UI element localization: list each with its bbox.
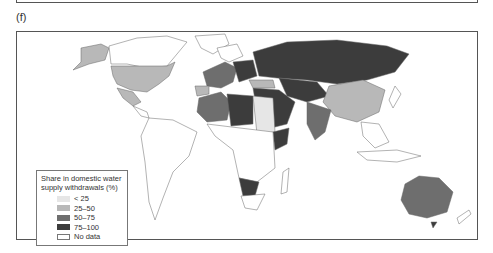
- region-turkey: [249, 80, 275, 88]
- region-russia: [253, 40, 409, 84]
- region-se-asia: [361, 122, 389, 148]
- region-indonesia: [357, 150, 421, 162]
- swatch-75-100: [57, 224, 70, 230]
- legend-item-50-75: 50–75: [41, 213, 123, 223]
- swatch-lt25: [57, 196, 70, 202]
- region-alaska: [73, 44, 109, 70]
- panel-label: (f): [16, 11, 26, 23]
- region-new-zealand: [457, 210, 471, 224]
- legend-label: 25–50: [74, 204, 95, 213]
- map-frame: Share in domestic water supply withdrawa…: [16, 31, 478, 240]
- region-central-africa: [207, 124, 275, 182]
- region-central-america: [133, 106, 149, 118]
- legend-label: < 25: [74, 194, 89, 203]
- region-japan: [389, 86, 401, 108]
- swatch-no-data: [57, 234, 70, 240]
- swatch-25-50: [57, 205, 70, 211]
- region-india: [307, 102, 331, 140]
- map-legend: Share in domestic water supply withdrawa…: [36, 170, 128, 246]
- region-china: [323, 80, 385, 122]
- region-europe-west: [203, 62, 237, 88]
- legend-item-lt25: < 25: [41, 194, 123, 204]
- region-egypt-sudan: [253, 96, 275, 134]
- legend-item-no-data: No data: [41, 232, 123, 242]
- legend-item-75-100: 75–100: [41, 223, 123, 233]
- region-australia: [401, 176, 453, 218]
- previous-panel-frame: [16, 0, 478, 3]
- region-south-america: [141, 118, 197, 220]
- region-north-africa-central: [227, 94, 253, 126]
- region-south-africa: [241, 194, 265, 210]
- region-horn-africa: [273, 128, 289, 150]
- legend-title: Share in domestic water supply withdrawa…: [41, 174, 123, 192]
- swatch-50-75: [57, 215, 70, 221]
- region-north-africa-west: [197, 92, 231, 122]
- legend-item-25-50: 25–50: [41, 204, 123, 214]
- legend-label: 75–100: [74, 223, 99, 232]
- region-madagascar: [281, 168, 289, 194]
- region-usa: [111, 62, 175, 92]
- region-europe-east: [233, 60, 257, 82]
- legend-label: 50–75: [74, 213, 95, 222]
- region-tasmania: [431, 222, 437, 228]
- region-canada: [109, 36, 187, 68]
- legend-label: No data: [74, 232, 100, 241]
- region-iberia: [195, 86, 209, 96]
